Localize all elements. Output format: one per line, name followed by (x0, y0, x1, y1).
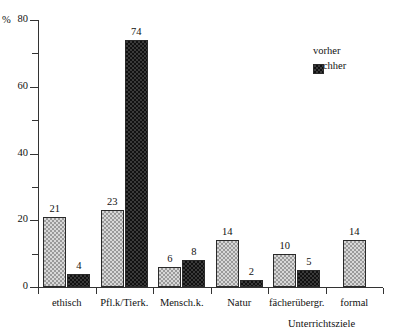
legend-item-nachher: nachher (313, 59, 346, 72)
x-tick-0 (38, 288, 39, 294)
y-tick-label-80: 80 (0, 14, 28, 24)
bar-vorher-formal (343, 240, 366, 287)
category-label-ethisch: ethisch (38, 297, 96, 308)
category-label-Pfl.k/Tierk.: Pfl.k/Tierk. (96, 297, 154, 308)
bar-nachher-Mensch.k. (182, 260, 205, 287)
bar-label-vorher-Natur: 14 (210, 226, 245, 237)
y-tick-major-20 (30, 220, 38, 221)
bar-vorher-Pfl.k/Tierk. (101, 210, 124, 287)
x-tick-end (383, 288, 384, 294)
bar-nachher-Pfl.k/Tierk. (125, 40, 148, 287)
legend-swatch-nachher (313, 64, 324, 74)
y-tick-major-80 (30, 20, 38, 21)
bar-label-vorher-fächerübergr.: 10 (267, 240, 302, 251)
bar-label-vorher-ethisch: 21 (37, 203, 72, 214)
y-tick-major-0 (30, 287, 38, 288)
x-tick-2 (153, 288, 154, 294)
y-tick-major-60 (30, 87, 38, 88)
bar-label-nachher-ethisch: 4 (61, 260, 96, 271)
bar-label-nachher-fächerübergr.: 5 (291, 256, 326, 267)
bar-label-vorher-formal: 14 (337, 226, 372, 237)
bar-nachher-fächerübergr. (297, 270, 320, 287)
x-tick-4 (268, 288, 269, 294)
bar-vorher-Natur (216, 240, 239, 287)
x-tick-3 (211, 288, 212, 294)
bar-label-nachher-Pfl.k/Tierk.: 74 (119, 26, 154, 37)
bar-nachher-Natur (240, 280, 263, 287)
y-tick-label-40: 40 (0, 148, 28, 158)
x-tick-1 (96, 288, 97, 294)
x-tick-5 (326, 288, 327, 294)
category-label-fächerübergr.: fächerübergr. (268, 297, 326, 308)
legend-label-vorher: vorher (313, 45, 340, 56)
bar-label-vorher-Pfl.k/Tierk.: 23 (95, 196, 130, 207)
bar-label-nachher-Natur: 2 (234, 266, 269, 277)
x-axis-title: Unterrichtsziele (288, 318, 355, 329)
bar-label-nachher-Mensch.k.: 8 (176, 246, 211, 257)
bar-chart: % 020406080 21423746814210514 ethischPfl… (0, 0, 399, 336)
bar-vorher-ethisch (43, 217, 66, 287)
y-tick-label-0: 0 (0, 281, 28, 291)
legend: vorher nachher (313, 44, 346, 74)
legend-item-vorher: vorher (313, 44, 346, 57)
category-label-formal: formal (326, 297, 384, 308)
y-tick-label-60: 60 (0, 81, 28, 91)
bar-vorher-Mensch.k. (158, 267, 181, 287)
y-tick-major-40 (30, 154, 38, 155)
y-tick-label-20: 20 (0, 214, 28, 224)
category-label-Mensch.k.: Mensch.k. (153, 297, 211, 308)
bar-nachher-ethisch (67, 274, 90, 287)
category-label-Natur: Natur (211, 297, 269, 308)
